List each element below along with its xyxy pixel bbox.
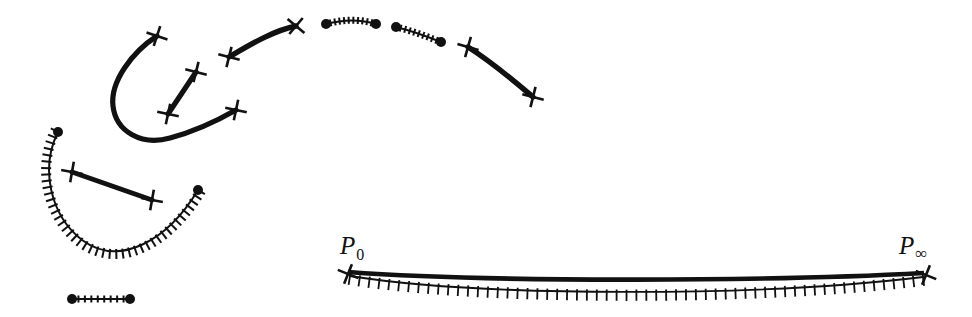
bottom-long-hatched-curve-tick	[903, 277, 904, 288]
top-middle-hatched-segment-b-tick	[404, 26, 406, 33]
top-middle-hatched-segment-b-tick	[422, 32, 424, 39]
top-middle-hatched-segment-a-tick	[334, 19, 335, 26]
p-zero-base: P	[340, 232, 355, 259]
left-straight-chord-stroke	[72, 172, 152, 200]
short-diagonal-segment-stroke	[168, 72, 196, 114]
left-straight-chord-end-cross-marker	[139, 188, 164, 212]
thick-curves-layer	[59, 11, 940, 289]
top-middle-hatched-segment-a-tick	[366, 18, 367, 25]
left-straight-chord	[59, 160, 164, 212]
large-u-curve-end-cross-marker	[223, 97, 249, 122]
left-straight-chord-start-cross-marker	[59, 160, 84, 184]
bottom-long-hatched-curve-tick	[438, 283, 439, 294]
figure-drawing	[0, 0, 972, 317]
top-middle-hatched-segment-b-start-dot	[391, 22, 401, 32]
p-infinity-subscript: ∞	[914, 244, 927, 263]
top-middle-hatched-segment-b-tick	[418, 30, 420, 37]
left-hatched-u-arc-tick	[71, 234, 78, 241]
bottom-long-hatched-curve-tick	[874, 280, 875, 291]
left-hatched-u-arc-tick	[66, 230, 73, 237]
top-middle-hatched-segment-a-tick	[339, 18, 340, 25]
top-middle-hatched-segment-b-tick	[409, 27, 411, 34]
upper-long-arc-stroke	[229, 26, 296, 57]
short-diagonal-segment-end-cross-marker	[183, 59, 209, 85]
upper-long-arc-start-cross-marker	[216, 44, 242, 70]
bottom-left-hatched-segment	[67, 294, 135, 304]
top-middle-hatched-segment-b-end-dot	[436, 37, 446, 47]
bottom-long-hatched-curve-tick	[785, 286, 786, 297]
top-middle-hatched-segment-b-tick	[413, 29, 415, 36]
left-hatched-u-arc-tick	[42, 180, 52, 181]
bottom-long-hatched-curve-tick	[834, 283, 835, 294]
p-infinity-label: P∞	[899, 233, 927, 262]
bottom-long-hatched-curve-tick	[854, 282, 855, 293]
top-middle-hatched-segment-b-tick	[427, 34, 429, 41]
bottom-long-hatched-curve-tick	[795, 285, 796, 296]
bottom-long-hatched-curve-tick	[468, 285, 469, 296]
top-middle-hatched-segment-a	[321, 17, 381, 29]
bottom-long-hatched-curve-tick	[844, 282, 845, 293]
top-middle-hatched-segment-a-tick	[358, 17, 359, 24]
top-middle-hatched-segment-a-spine	[326, 20, 376, 24]
left-hatched-u-arc-start-dot	[53, 127, 63, 137]
top-middle-hatched-segment-a-tick	[362, 17, 363, 24]
bottom-long-thick-curve-stroke	[348, 272, 924, 280]
short-diagonal-segment	[155, 59, 209, 126]
large-u-curve	[113, 23, 249, 141]
bottom-long-hatched-curve-tick	[458, 285, 459, 296]
bottom-left-hatched-segment-end-dot	[125, 294, 135, 304]
short-diagonal-segment-start-cross-marker	[155, 101, 181, 126]
figure-canvas: P0 P∞	[0, 0, 972, 317]
bottom-long-hatched-curve-tick	[824, 284, 825, 295]
p-zero-label: P0	[340, 233, 364, 263]
bottom-long-hatched-curve-tick	[478, 286, 479, 297]
upper-long-arc	[216, 11, 311, 70]
bottom-long-hatched-curve-tick	[805, 285, 806, 296]
bottom-long-hatched-curve-tick	[418, 282, 419, 293]
top-middle-hatched-segment-a-start-dot	[321, 19, 331, 29]
bottom-long-hatched-curve-tick	[814, 284, 815, 295]
right-descending-arc-stroke	[468, 47, 533, 97]
top-middle-hatched-segment-a-tick	[344, 17, 345, 24]
p-zero-subscript: 0	[355, 246, 364, 263]
bottom-long-hatched-curve-tick	[775, 286, 776, 297]
bottom-long-hatched-curve-tick	[913, 276, 914, 287]
right-descending-arc	[455, 34, 547, 110]
bottom-long-hatched-curve-tick	[488, 286, 489, 297]
bottom-long-hatched-curve-tick	[448, 284, 449, 295]
left-hatched-u-arc-tick	[109, 249, 110, 259]
left-hatched-u-arc-tick	[42, 161, 52, 162]
bottom-left-hatched-segment-start-dot	[67, 294, 77, 304]
bottom-long-hatched-curve-tick	[497, 287, 498, 298]
bottom-long-hatched-curve-tick	[398, 280, 399, 291]
bottom-long-hatched-curve-tick	[388, 279, 389, 290]
bottom-long-hatched-curve-tick	[883, 279, 884, 290]
top-middle-hatched-segment-a-end-dot	[371, 19, 381, 29]
left-hatched-u-arc	[41, 127, 205, 259]
left-hatched-u-arc-tick	[122, 249, 123, 259]
bottom-long-hatched-curve-tick	[428, 283, 429, 294]
left-hatched-u-arc-end-dot	[193, 185, 203, 195]
bottom-long-hatched-curve-tick	[864, 281, 865, 292]
large-u-curve-stroke	[113, 36, 236, 140]
bottom-long-hatched-curve-tick	[408, 281, 409, 292]
bottom-long-hatched-curve-tick	[893, 278, 894, 289]
p-infinity-base: P	[899, 232, 914, 259]
top-middle-hatched-segment-b-tick	[431, 35, 433, 42]
top-middle-hatched-segment-b	[391, 22, 446, 47]
